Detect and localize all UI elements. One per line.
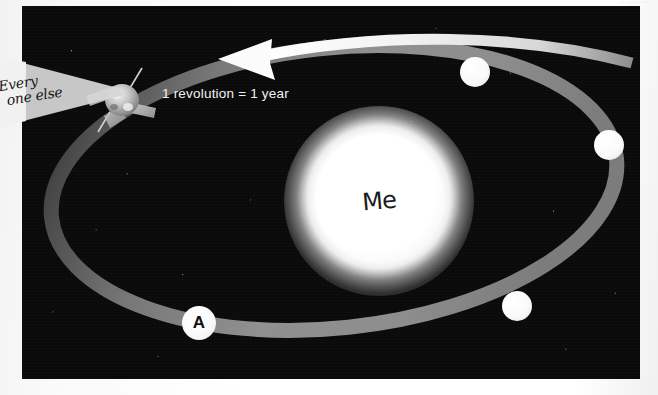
page-canvas: ... ... ... ...	[0, 0, 658, 395]
handwritten-annotation: Every one else	[0, 48, 146, 136]
planet-bottom-right[interactable]	[502, 291, 532, 321]
planet-right[interactable]	[594, 130, 624, 160]
planet-top[interactable]	[460, 57, 490, 87]
sun-handwritten-label: Me	[276, 98, 482, 304]
page-header-scrap: ... ... ... ...	[619, 0, 650, 4]
planet-a-label: A	[193, 313, 205, 333]
planet-a[interactable]: A	[182, 306, 216, 340]
caption-revolution: 1 revolution = 1 year	[162, 86, 289, 101]
sun: Me	[284, 106, 474, 296]
